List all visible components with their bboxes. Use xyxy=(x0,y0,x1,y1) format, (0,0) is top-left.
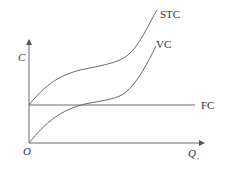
x-axis-label: Q xyxy=(188,147,196,159)
stc-label: STC xyxy=(160,8,180,20)
vc-label: VC xyxy=(156,38,171,50)
vc-curve xyxy=(29,46,156,143)
stc-curve xyxy=(29,10,157,105)
x-axis-subscript: , xyxy=(197,152,199,161)
fc-label: FC xyxy=(201,99,214,111)
cost-curves-chart: C O Q , STC VC FC xyxy=(0,0,228,172)
y-axis-label: C xyxy=(18,51,26,63)
origin-label: O xyxy=(23,145,31,157)
